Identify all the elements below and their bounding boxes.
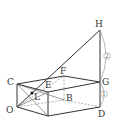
label-H: H: [95, 19, 103, 29]
ratio-lower: 1: [102, 90, 106, 97]
label-E: E: [45, 80, 52, 90]
label-D: D: [98, 109, 105, 117]
label-G: G: [102, 77, 109, 87]
edge-C-front: [17, 84, 48, 92]
edge-CF: [17, 76, 64, 84]
label-F: F: [60, 66, 66, 76]
line-OH: [17, 30, 100, 107]
edge-front-G: [48, 82, 100, 92]
label-O: O: [6, 105, 13, 115]
ratio-upper: 2: [105, 52, 109, 59]
diagonal-C-B: [17, 84, 64, 100]
label-L: L: [34, 92, 40, 102]
geometry-figure: 2 1 H G D C O E F B L: [0, 0, 120, 117]
label-C: C: [7, 77, 14, 87]
edge-bottom-D: [48, 107, 100, 116]
edge-FG: [64, 76, 100, 82]
label-B: B: [66, 93, 73, 103]
